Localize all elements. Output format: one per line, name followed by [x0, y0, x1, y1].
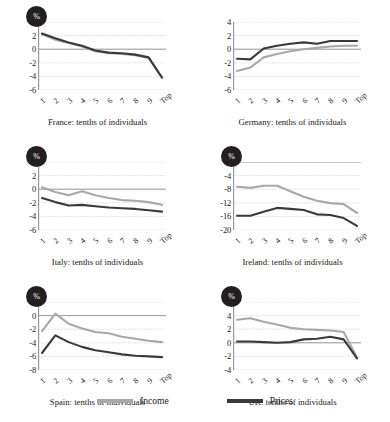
legend-item-income: Income [97, 396, 169, 406]
x-tick-label: 8 [327, 96, 336, 105]
x-tick-label: 3 [65, 236, 74, 245]
series-line-prices [42, 198, 162, 212]
series-line-prices [237, 337, 357, 359]
y-tick-label: 4 [227, 17, 231, 27]
x-tick-label: 9 [340, 96, 349, 105]
x-tick-label: 2 [247, 236, 256, 245]
y-tick-label: -2 [29, 324, 36, 334]
panel-caption: France: tenths of individuals [0, 117, 195, 127]
y-tick-label: -2 [224, 58, 231, 68]
y-tick-label: 2 [32, 171, 36, 181]
chart-grid: % 420-2-4-6 123456789Top France: tenths … [0, 0, 390, 390]
y-tick-label: 0 [227, 338, 231, 348]
percent-badge: % [26, 146, 47, 167]
x-tick-label: 3 [260, 376, 269, 385]
x-tick-label: 8 [327, 236, 336, 245]
y-axis-labels: 0-4-8-12-16-20 [211, 162, 231, 230]
panel-caption: Germany: tenths of individuals [195, 117, 390, 127]
x-tick-label: 9 [340, 236, 349, 245]
percent-badge: % [26, 6, 47, 27]
x-tick-label: 3 [65, 96, 74, 105]
y-tick-label: -2 [29, 198, 36, 208]
plot-svg [38, 302, 166, 370]
x-tick-label: 9 [340, 376, 349, 385]
x-tick-label: 4 [273, 376, 282, 385]
x-tick-label: Top [158, 91, 173, 106]
x-tick-label: Top [353, 231, 368, 246]
income-line-swatch [97, 399, 133, 403]
y-tick-label: -4 [224, 71, 231, 81]
x-tick-label: 4 [78, 376, 87, 385]
x-tick-label: 2 [52, 96, 61, 105]
x-tick-label: 2 [247, 376, 256, 385]
legend-item-prices: Prices [227, 396, 293, 406]
x-tick-label: Top [158, 231, 173, 246]
x-tick-label: 8 [132, 236, 141, 245]
panel-spain: % 20-2-4-6-8 123456789Top Spain: tenths … [0, 280, 195, 390]
x-axis-labels: 123456789Top [38, 232, 174, 256]
x-tick-label: 6 [105, 96, 114, 105]
y-tick-label: 0 [32, 44, 36, 54]
y-tick-label: 0 [32, 311, 36, 321]
y-axis-labels: 20-2-4-6-8 [16, 302, 36, 370]
x-axis-labels: 123456789Top [233, 232, 369, 256]
y-tick-label: -8 [29, 365, 36, 375]
series-line-prices [42, 34, 162, 78]
x-axis-labels: 123456789Top [233, 92, 369, 116]
y-tick-label: -4 [224, 365, 231, 375]
plot-svg [38, 162, 166, 230]
y-axis-labels: 420-2-4-6 [16, 22, 36, 90]
y-tick-label: -16 [220, 211, 231, 221]
y-tick-label: -4 [29, 338, 36, 348]
y-tick-label: -8 [224, 184, 231, 194]
panel-ireland: % 0-4-8-12-16-20 123456789Top Ireland: t… [195, 140, 390, 280]
y-tick-label: -2 [224, 351, 231, 361]
x-tick-label: 7 [313, 376, 322, 385]
x-tick-label: 2 [52, 376, 61, 385]
x-tick-label: 1 [233, 376, 242, 385]
x-tick-label: 3 [65, 376, 74, 385]
plot-svg [233, 162, 361, 230]
x-tick-label: 5 [92, 376, 101, 385]
plot-svg [233, 22, 361, 90]
x-tick-label: 4 [78, 236, 87, 245]
legend-label-prices: Prices [270, 396, 293, 406]
percent-badge: % [221, 146, 242, 167]
x-tick-label: 5 [287, 376, 296, 385]
y-tick-label: -4 [29, 71, 36, 81]
y-tick-label: 2 [227, 324, 231, 334]
y-tick-label: -12 [220, 198, 231, 208]
x-tick-label: 9 [145, 236, 154, 245]
y-tick-label: -6 [29, 225, 36, 235]
series-line-income [42, 187, 162, 205]
x-tick-label: 7 [118, 376, 127, 385]
plot-area [233, 162, 361, 230]
x-tick-label: 7 [313, 96, 322, 105]
x-tick-label: 1 [38, 96, 47, 105]
y-tick-label: 2 [32, 31, 36, 41]
x-tick-label: Top [158, 371, 173, 386]
x-axis-labels: 123456789Top [233, 372, 369, 396]
y-axis-labels: 420-2-4-6 [16, 162, 36, 230]
x-tick-label: 4 [273, 96, 282, 105]
panel-caption: Italy: tenths of individuals [0, 257, 195, 267]
y-tick-label: -6 [224, 85, 231, 95]
x-tick-label: 6 [300, 236, 309, 245]
plot-area [38, 162, 166, 230]
x-tick-label: 3 [260, 236, 269, 245]
x-tick-label: 6 [300, 376, 309, 385]
x-tick-label: 8 [327, 376, 336, 385]
x-tick-label: 1 [233, 96, 242, 105]
y-tick-label: 2 [227, 31, 231, 41]
y-tick-label: 0 [32, 184, 36, 194]
x-tick-label: 6 [105, 236, 114, 245]
x-tick-label: 6 [300, 96, 309, 105]
x-tick-label: 9 [145, 376, 154, 385]
x-tick-label: Top [353, 371, 368, 386]
plot-area [233, 302, 361, 370]
plot-area [38, 302, 166, 370]
y-tick-label: 0 [227, 44, 231, 54]
x-tick-label: 7 [313, 236, 322, 245]
x-tick-label: 7 [118, 236, 127, 245]
y-tick-label: -6 [29, 85, 36, 95]
